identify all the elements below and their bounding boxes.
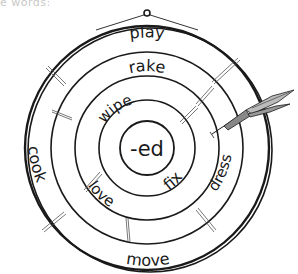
word-wipe: wipe xyxy=(94,91,134,127)
word-play: play xyxy=(128,22,165,42)
word-dress: dress xyxy=(204,152,235,194)
center-suffix: -ed xyxy=(130,137,164,161)
word-rake: rake xyxy=(127,56,167,77)
word-fix: fix xyxy=(160,168,186,194)
dart-icon xyxy=(210,90,294,138)
word-move: move xyxy=(125,249,171,270)
dartboard: -ed play rake wipe fix love dress cook m… xyxy=(0,0,298,274)
